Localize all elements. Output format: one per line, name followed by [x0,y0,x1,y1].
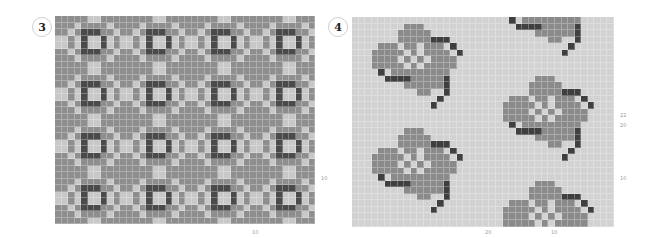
chart-3-axis-label: 10 [321,175,327,181]
chart-3-axis-label: 10 [252,229,258,235]
chart-4-axis-label: 10 [551,229,557,235]
chart-4-axis-label: 22 [620,112,626,118]
chart-4-axis-label: 20 [620,122,626,128]
chart-cell [607,220,614,227]
chart-4-badge: 4 [328,17,348,37]
chart-4-axis-label: 10 [620,175,626,181]
chart-4-grid [352,17,614,227]
chart-cell [309,218,316,225]
chart-3-badge: 3 [32,17,52,37]
chart-3-grid [55,16,315,224]
chart-4-axis-label: 20 [485,229,491,235]
